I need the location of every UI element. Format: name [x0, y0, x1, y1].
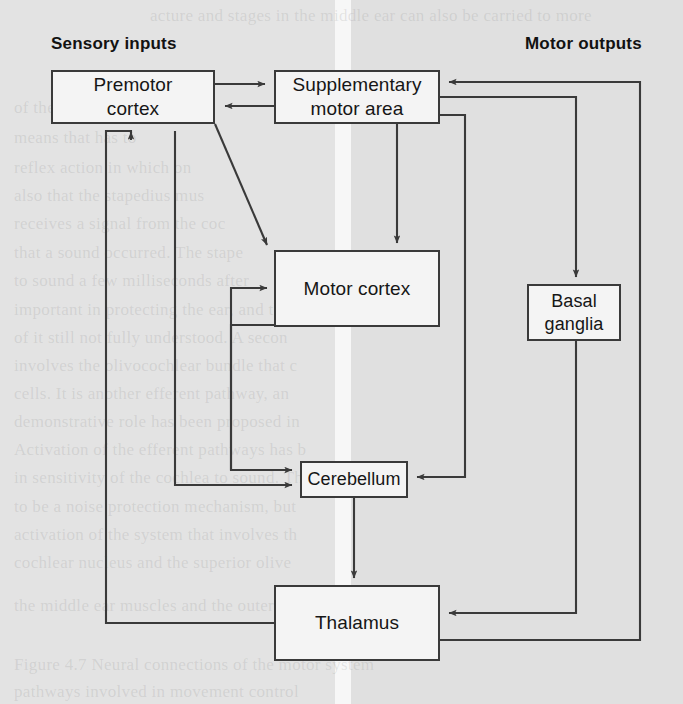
node-label-supplementary-motor-area: Supplementary motor area — [292, 73, 421, 121]
node-line2: motor area — [311, 98, 404, 119]
figure-canvas: acture and stages in the middle ear can … — [0, 0, 683, 704]
edge-motor-cortex-to-cerebellum — [231, 325, 292, 470]
node-line2: ganglia — [545, 314, 604, 334]
node-label-thalamus: Thalamus — [315, 611, 399, 635]
node-label-premotor-cortex: Premotor cortex — [94, 73, 173, 121]
edge-premotor-to-motor-cortex — [215, 124, 267, 245]
edge-sma-to-basal-ganglia — [440, 97, 576, 277]
node-thalamus[interactable]: Thalamus — [274, 585, 440, 661]
node-motor-cortex[interactable]: Motor cortex — [274, 250, 440, 327]
node-line1: Supplementary — [292, 74, 421, 95]
node-premotor-cortex[interactable]: Premotor cortex — [51, 70, 215, 124]
node-label-cerebellum: Cerebellum — [307, 468, 400, 491]
node-basal-ganglia[interactable]: Basal ganglia — [527, 284, 621, 341]
node-cerebellum[interactable]: Cerebellum — [300, 461, 408, 498]
edge-cerebellum-to-motor-cortex — [231, 288, 267, 470]
node-line1: Premotor — [94, 74, 173, 95]
node-label-basal-ganglia: Basal ganglia — [545, 290, 604, 335]
node-supplementary-motor-area[interactable]: Supplementary motor area — [274, 70, 440, 124]
edge-basal-ganglia-to-thalamus — [449, 341, 576, 613]
node-label-motor-cortex: Motor cortex — [304, 277, 411, 301]
edge-thalamus-to-sma — [440, 82, 640, 640]
node-line2: cortex — [107, 98, 159, 119]
node-line1: Basal — [551, 291, 597, 311]
